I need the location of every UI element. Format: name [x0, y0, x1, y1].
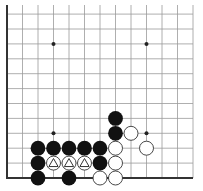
black-stone	[31, 141, 46, 156]
black-stone	[62, 171, 77, 186]
white-stone	[93, 171, 107, 185]
black-stone	[93, 141, 108, 156]
black-stone	[31, 156, 46, 171]
white-stone	[140, 141, 154, 155]
star-point-icon	[145, 131, 149, 135]
white-stone	[109, 171, 123, 185]
black-stone	[62, 141, 77, 156]
white-stone	[109, 156, 123, 170]
black-stone	[77, 141, 92, 156]
star-point-icon	[52, 131, 56, 135]
black-stone	[46, 141, 61, 156]
white-stone	[109, 141, 123, 155]
black-stone	[108, 126, 123, 141]
star-point-icon	[145, 42, 149, 46]
white-stone	[124, 126, 138, 140]
black-stone	[108, 111, 123, 126]
black-stone	[93, 156, 108, 171]
go-board	[0, 0, 203, 191]
star-point-icon	[52, 42, 56, 46]
black-stone	[31, 171, 46, 186]
